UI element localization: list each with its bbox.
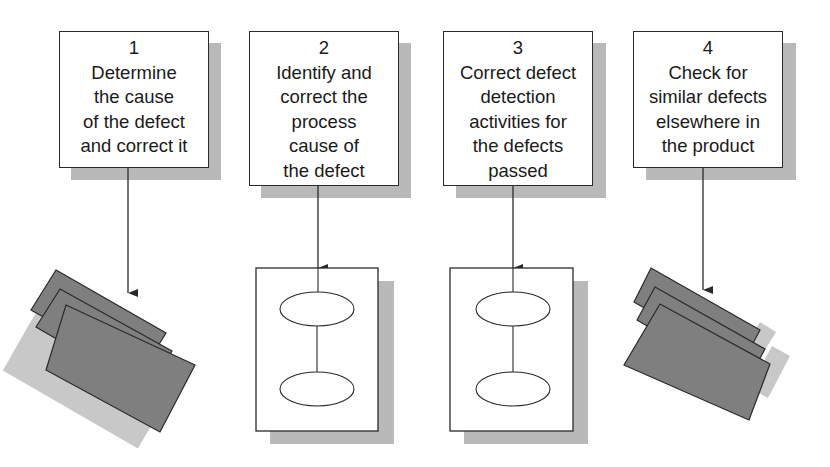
process-diagram-icon-2 — [256, 268, 394, 444]
diagram-graphics — [0, 0, 830, 467]
product-documents-icon-4 — [624, 268, 790, 420]
process-diagram-icon-3 — [450, 268, 588, 444]
product-documents-icon-1 — [3, 270, 195, 448]
